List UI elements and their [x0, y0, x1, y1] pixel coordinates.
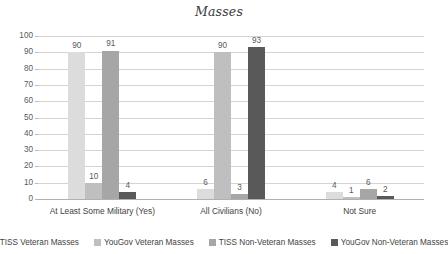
y-axis-tick-label: 20 [24, 162, 33, 170]
bar-group: 690393All Civilians (No) [167, 36, 296, 199]
bar-cell: 3 [231, 36, 248, 199]
chart-title: Masses [0, 4, 438, 19]
legend-item[interactable]: YouGov Non-Veteran Masses [331, 239, 448, 247]
bar-group: 9010914At Least Some Military (Yes) [38, 36, 167, 199]
bar-value-label: 10 [89, 173, 98, 181]
bar-value-label: 90 [72, 42, 81, 50]
chart-legend: TISS Veteran MassesYouGov Veteran Masses… [0, 239, 438, 247]
legend-label: TISS Veteran Masses [0, 239, 79, 247]
y-axis-tick-label: 0 [28, 195, 33, 203]
bar[interactable] [214, 52, 231, 199]
bar[interactable] [326, 192, 343, 199]
bar[interactable] [360, 189, 377, 199]
plot-area: 0102030405060708090100 9010914At Least S… [38, 36, 424, 199]
bar-value-label: 4 [126, 182, 131, 190]
bar-value-label: 93 [252, 37, 261, 45]
legend-swatch-icon [209, 239, 216, 246]
bar-value-label: 1 [349, 187, 354, 195]
y-axis-tick-label: 60 [24, 97, 33, 105]
bar-cell: 4 [326, 36, 343, 199]
bar[interactable] [377, 196, 394, 199]
y-axis-tick-mark [35, 199, 38, 200]
y-axis-tick-label: 10 [24, 179, 33, 187]
bar[interactable] [119, 192, 136, 199]
bar-value-label: 4 [332, 182, 337, 190]
gridline [38, 199, 424, 200]
bar-group-bars: 9010914 [38, 36, 167, 199]
legend-swatch-icon [94, 239, 101, 246]
bar-group-bars: 4162 [295, 36, 424, 199]
y-axis-tick-label: 40 [24, 130, 33, 138]
bar[interactable] [68, 52, 85, 199]
bar[interactable] [343, 197, 360, 199]
legend-item[interactable]: TISS Non-Veteran Masses [209, 239, 316, 247]
legend-label: YouGov Veteran Masses [104, 239, 194, 247]
bar-value-label: 2 [383, 186, 388, 194]
legend-label: YouGov Non-Veteran Masses [341, 239, 448, 247]
legend-item[interactable]: YouGov Veteran Masses [94, 239, 194, 247]
bar-value-label: 6 [366, 179, 371, 187]
legend-swatch-icon [331, 239, 338, 246]
y-axis-tick-label: 90 [24, 48, 33, 56]
bar-group: 4162Not Sure [295, 36, 424, 199]
bar-cell: 2 [377, 36, 394, 199]
y-axis-tick-label: 100 [19, 32, 33, 40]
bar[interactable] [85, 183, 102, 199]
bar-cell: 4 [119, 36, 136, 199]
y-axis-tick-label: 50 [24, 113, 33, 121]
bar[interactable] [197, 189, 214, 199]
x-axis-category-label: All Civilians (No) [167, 206, 296, 216]
y-axis-tick-label: 30 [24, 146, 33, 154]
bar-value-label: 3 [237, 184, 242, 192]
bar-cell: 91 [102, 36, 119, 199]
bar-group-bars: 690393 [167, 36, 296, 199]
bar-cell: 10 [85, 36, 102, 199]
bar[interactable] [248, 47, 265, 199]
bar-value-label: 90 [218, 42, 227, 50]
bar-cell: 6 [360, 36, 377, 199]
y-axis-tick-label: 80 [24, 64, 33, 72]
bar[interactable] [231, 194, 248, 199]
bar-groups: 9010914At Least Some Military (Yes)69039… [38, 36, 424, 199]
bar-value-label: 91 [106, 40, 115, 48]
bar[interactable] [102, 51, 119, 199]
x-axis-category-label: At Least Some Military (Yes) [38, 206, 167, 216]
x-axis-category-label: Not Sure [295, 206, 424, 216]
bar-cell: 1 [343, 36, 360, 199]
bar-cell: 93 [248, 36, 265, 199]
bar-value-label: 6 [203, 179, 208, 187]
bar-cell: 6 [197, 36, 214, 199]
bar-cell: 90 [68, 36, 85, 199]
legend-item[interactable]: TISS Veteran Masses [0, 239, 79, 247]
y-axis-tick-label: 70 [24, 81, 33, 89]
legend-label: TISS Non-Veteran Masses [219, 239, 316, 247]
bar-cell: 90 [214, 36, 231, 199]
